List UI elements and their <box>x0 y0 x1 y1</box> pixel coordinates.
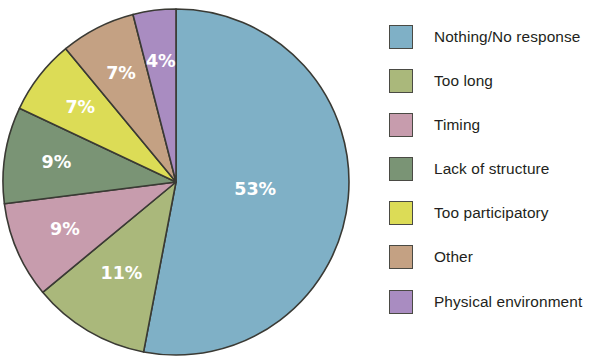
legend-item-label: Timing <box>434 116 480 134</box>
legend-color-swatch <box>389 245 413 269</box>
legend-item-label: Other <box>434 248 473 266</box>
pie-slice-label: 4% <box>146 51 176 71</box>
legend-color-swatch <box>389 290 413 314</box>
pie-slice-label: 53% <box>234 179 276 199</box>
legend-item-label: Lack of structure <box>434 160 549 178</box>
legend-item[interactable]: Nothing/No response <box>389 24 615 49</box>
legend-item[interactable]: Physical environment <box>389 289 615 314</box>
legend-color-swatch <box>389 113 413 137</box>
pie-slice-label: 7% <box>106 63 136 83</box>
pie-chart-figure: 53%11%9%9%7%7%4% Nothing/No responseToo … <box>0 0 615 363</box>
chart-legend: Nothing/No responseToo longTimingLack of… <box>389 24 615 333</box>
legend-item[interactable]: Timing <box>389 112 615 137</box>
pie-slice-label: 7% <box>65 97 95 117</box>
pie-plot-area: 53%11%9%9%7%7%4% <box>0 0 360 363</box>
pie-svg: 53%11%9%9%7%7%4% <box>0 0 360 363</box>
legend-item[interactable]: Too participatory <box>389 201 615 226</box>
legend-item-label: Physical environment <box>434 293 582 311</box>
legend-color-swatch <box>389 201 413 225</box>
pie-slice-label: 11% <box>100 263 142 283</box>
pie-slice-label: 9% <box>50 219 80 239</box>
legend-item-label: Nothing/No response <box>434 28 581 46</box>
legend-item[interactable]: Too long <box>389 68 615 93</box>
legend-item-label: Too long <box>434 72 493 90</box>
legend-color-swatch <box>389 25 413 49</box>
legend-color-swatch <box>389 157 413 181</box>
pie-slices-group <box>3 9 349 355</box>
legend-item[interactable]: Lack of structure <box>389 157 615 182</box>
legend-item-label: Too participatory <box>434 204 549 222</box>
legend-color-swatch <box>389 69 413 93</box>
legend-item[interactable]: Other <box>389 245 615 270</box>
pie-slice-label: 9% <box>42 152 72 172</box>
